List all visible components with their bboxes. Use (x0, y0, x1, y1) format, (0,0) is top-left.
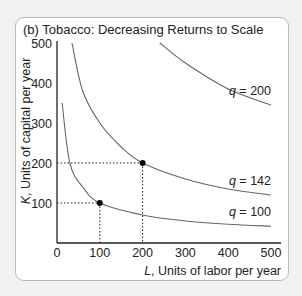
x-tick-label: 0 (54, 246, 61, 260)
x-tick-label: 500 (261, 246, 282, 260)
axes: 0100200300400500100200300400500L, Units … (19, 37, 281, 279)
x-tick-label: 400 (218, 246, 239, 260)
x-tick-label: 200 (132, 246, 153, 260)
isoquant-curves (62, 43, 271, 226)
isoquant-chart: 0100200300400500100200300400500L, Units … (0, 0, 302, 296)
curve-label: q = 142 (229, 174, 271, 188)
x-axis-label: L, Units of labor per year (144, 264, 281, 278)
highlight-point (97, 200, 103, 206)
y-tick-label: 100 (31, 197, 52, 211)
y-tick-label: 300 (31, 117, 52, 131)
curve-label: q = 200 (229, 84, 271, 98)
y-tick-label: 400 (31, 77, 52, 91)
x-tick-label: 300 (175, 246, 196, 260)
curve-label: q = 100 (229, 205, 271, 219)
y-tick-label: 200 (31, 157, 52, 171)
y-tick-label: 500 (31, 37, 52, 51)
curve-labels: q = 100q = 142q = 200 (229, 84, 271, 219)
highlight-points (97, 160, 146, 206)
isoquant-curve (72, 43, 271, 195)
x-tick-label: 100 (89, 246, 110, 260)
highlight-point (140, 160, 146, 166)
y-axis-label: K, Units of capital per year (19, 58, 33, 205)
